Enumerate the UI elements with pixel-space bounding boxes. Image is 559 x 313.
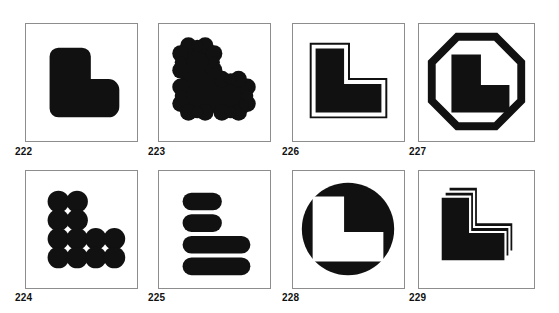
figure-caption-227: 227 xyxy=(409,146,426,157)
figure-panel-223 xyxy=(158,23,271,142)
figure-panel-229 xyxy=(418,170,535,289)
figure-caption-228: 228 xyxy=(282,292,299,303)
figure-panel-228 xyxy=(292,170,405,289)
reversed-circle-l-shape-figure xyxy=(293,171,404,288)
layered-offset-l-shapes-figure xyxy=(419,171,534,288)
figure-panel-224 xyxy=(25,170,138,289)
octagon-framed-l-shape-figure xyxy=(419,24,534,141)
figure-panel-225 xyxy=(158,170,271,289)
outlined-l-shape-figure xyxy=(293,24,404,141)
figure-caption-226: 226 xyxy=(282,146,299,157)
figure-caption-229: 229 xyxy=(409,292,426,303)
stacked-bars-l-shape-figure xyxy=(159,171,270,288)
figure-caption-225: 225 xyxy=(148,292,165,303)
figure-panel-222 xyxy=(25,23,138,142)
figure-caption-223: 223 xyxy=(148,146,165,157)
circle-grid-l-shape-figure xyxy=(26,171,137,288)
figure-panel-226 xyxy=(292,23,405,142)
figure-caption-222: 222 xyxy=(15,146,32,157)
scalloped-puzzle-l-shape-figure xyxy=(159,24,270,141)
rounded-l-shape-figure xyxy=(26,24,137,141)
figure-panel-227 xyxy=(418,23,535,142)
figure-plate: 222 xyxy=(0,0,559,313)
figure-caption-224: 224 xyxy=(15,292,32,303)
